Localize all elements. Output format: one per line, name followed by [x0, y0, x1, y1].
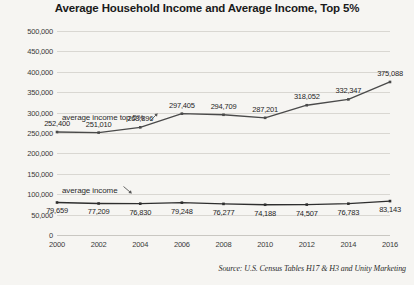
- x-axis-tick-label: 2002: [91, 240, 107, 249]
- data-label: 77,209: [88, 207, 110, 216]
- x-axis-tick-label: 2014: [340, 240, 356, 249]
- x-axis-tick-label: 2016: [382, 240, 398, 249]
- y-axis-tick-label: 0: [0, 231, 53, 240]
- y-axis-tick-label: 250,000: [0, 129, 53, 138]
- x-axis-tick-label: 2008: [216, 240, 232, 249]
- data-label: 76,783: [338, 208, 360, 217]
- arrow-down-right-icon: [123, 185, 134, 197]
- x-axis-tick-label: 2000: [49, 240, 65, 249]
- data-label: 76,830: [129, 208, 151, 217]
- data-label: 74,507: [296, 209, 318, 218]
- chart-container: Average Household Income and Average Inc…: [0, 0, 414, 285]
- data-label: 79,248: [171, 207, 193, 216]
- y-axis-tick-label: 200,000: [0, 149, 53, 158]
- x-axis-tick-label: 2004: [132, 240, 148, 249]
- y-axis-tick-label: 450,000: [0, 47, 53, 56]
- annotation-top-5-percent-label: average income top 5%: [62, 113, 144, 122]
- data-label: 74,188: [254, 209, 276, 218]
- data-label: 76,277: [213, 208, 235, 217]
- annotation-average-income-label: average income: [62, 186, 118, 195]
- x-axis: 200020022004200620082010201220142016: [57, 240, 390, 254]
- x-axis-tick-label: 2012: [299, 240, 315, 249]
- annotation-top-5-percent: average income top 5%: [62, 112, 159, 124]
- data-label: 79,659: [46, 206, 68, 215]
- y-axis-tick-label: 150,000: [0, 169, 53, 178]
- y-axis-tick-label: 350,000: [0, 88, 53, 97]
- arrow-up-right-icon: [149, 112, 159, 124]
- source-note: Source: U.S. Census Tables H17 & H3 and …: [219, 264, 406, 273]
- y-axis-tick-label: 50,000: [0, 210, 53, 219]
- y-axis-tick-label: 100,000: [0, 190, 53, 199]
- y-axis-tick-label: 300,000: [0, 108, 53, 117]
- y-axis: 500,000450,000400,000350,000300,000250,0…: [0, 31, 53, 235]
- y-axis-tick-label: 400,000: [0, 67, 53, 76]
- x-axis-tick-label: 2006: [174, 240, 190, 249]
- data-label: 83,143: [379, 205, 401, 214]
- annotation-average-income: average income: [62, 185, 134, 197]
- x-axis-tick-label: 2010: [257, 240, 273, 249]
- y-axis-tick-label: 500,000: [0, 27, 53, 36]
- chart-title: Average Household Income and Average Inc…: [0, 2, 414, 14]
- bottom-series-data-labels: 79,65977,20976,83079,24876,27774,18874,5…: [57, 31, 390, 235]
- gridline: [57, 235, 390, 236]
